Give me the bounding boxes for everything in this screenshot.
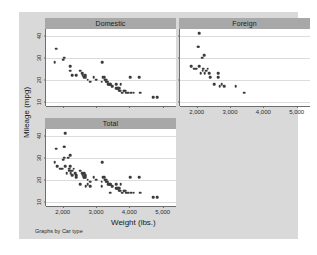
y-axis-title: Mileage (mpg) <box>21 32 33 192</box>
chart-figure: Mileage (mpg) Domestic10203040 Foreign2,… <box>19 12 298 239</box>
x-tick-mark <box>129 206 130 208</box>
data-point <box>53 61 56 64</box>
data-point <box>95 178 98 181</box>
data-point <box>203 54 206 57</box>
x-tick-mark <box>163 106 164 108</box>
y-tick-mark <box>178 35 180 36</box>
plot-area-foreign: 2,0003,0004,0005,000 <box>179 29 310 106</box>
data-point <box>72 167 75 170</box>
data-point <box>111 85 114 88</box>
data-point <box>190 65 193 68</box>
data-point <box>109 192 112 195</box>
gridline <box>46 180 176 181</box>
gridline <box>180 80 310 81</box>
y-tick-mark <box>44 135 46 136</box>
data-point <box>213 83 216 86</box>
panel-title-domestic: Domestic <box>45 18 176 29</box>
data-point <box>79 183 82 186</box>
data-point <box>55 48 58 51</box>
data-point <box>53 161 56 164</box>
data-point <box>115 183 118 186</box>
x-tick-label: 4,000 <box>256 109 271 115</box>
x-axis-line <box>46 106 176 107</box>
y-tick-mark <box>178 57 180 58</box>
y-tick-label: 20 <box>36 77 43 83</box>
data-point <box>64 132 67 135</box>
data-point <box>101 161 104 164</box>
plot-area-domestic: 10203040 <box>45 29 176 106</box>
data-point <box>69 165 72 168</box>
y-tick-mark <box>44 179 46 180</box>
data-point <box>115 83 118 86</box>
data-point <box>156 196 159 199</box>
data-point <box>152 96 155 99</box>
data-point <box>132 92 135 95</box>
data-point <box>75 74 78 77</box>
x-tick-mark <box>63 106 64 108</box>
data-point <box>89 185 92 188</box>
gridline <box>46 80 176 81</box>
y-tick-label: 30 <box>36 155 43 161</box>
data-point <box>234 85 237 88</box>
x-tick-mark <box>297 106 298 108</box>
y-tick-mark <box>44 101 46 102</box>
x-tick-mark <box>263 106 264 108</box>
data-point <box>89 181 92 184</box>
data-point <box>56 165 59 168</box>
x-axis-title: Weight (lbs.) <box>111 218 156 227</box>
data-point <box>197 45 200 48</box>
y-tick-mark <box>44 57 46 58</box>
data-point <box>138 176 141 179</box>
y-tick-label: 20 <box>36 177 43 183</box>
y-tick-mark <box>44 157 46 158</box>
panel-foreign: Foreign2,0003,0004,0005,000 <box>179 18 310 106</box>
data-point <box>63 156 66 159</box>
data-point <box>217 76 220 79</box>
data-point <box>119 83 122 86</box>
x-tick-mark <box>96 106 97 108</box>
data-point <box>111 185 114 188</box>
data-point <box>100 181 103 184</box>
x-tick-label: 3,000 <box>222 109 237 115</box>
y-tick-mark <box>178 79 180 80</box>
x-tick-label: 4,000 <box>122 209 137 215</box>
data-point <box>208 72 211 75</box>
y-tick-label: 40 <box>36 133 43 139</box>
x-tick-label: 5,000 <box>289 109 304 115</box>
data-point <box>63 145 66 148</box>
y-tick-label: 30 <box>36 55 43 61</box>
data-point <box>63 56 66 59</box>
x-tick-label: 3,000 <box>88 209 103 215</box>
data-point <box>243 92 246 95</box>
data-point <box>95 78 98 81</box>
y-tick-label: 10 <box>36 99 43 105</box>
data-point <box>55 148 58 151</box>
data-point <box>64 165 67 168</box>
y-tick-mark <box>44 79 46 80</box>
plot-area-total: 102030402,0003,0004,0005,000 <box>45 129 176 206</box>
x-tick-mark <box>163 206 164 208</box>
y-tick-label: 10 <box>36 199 43 205</box>
x-tick-mark <box>230 106 231 108</box>
gridline <box>180 36 310 37</box>
y-tick-label: 40 <box>36 33 43 39</box>
gridline <box>46 102 176 103</box>
data-point <box>100 81 103 84</box>
data-point <box>138 76 141 79</box>
x-axis-line <box>46 206 176 207</box>
data-point <box>100 185 103 188</box>
panel-domestic: Domestic10203040 <box>45 18 176 106</box>
y-tick-mark <box>44 35 46 36</box>
graph-note: Graphs by Car type <box>35 228 83 234</box>
data-point <box>127 92 130 95</box>
data-point <box>69 154 72 157</box>
data-point <box>217 72 220 75</box>
data-point <box>132 192 135 195</box>
data-point <box>71 174 74 177</box>
data-point <box>129 176 132 179</box>
x-tick-label: 2,000 <box>189 109 204 115</box>
data-point <box>198 32 201 35</box>
panel-total: Total102030402,0003,0004,0005,000 <box>45 118 176 206</box>
data-point <box>209 76 212 79</box>
data-point <box>198 65 201 68</box>
